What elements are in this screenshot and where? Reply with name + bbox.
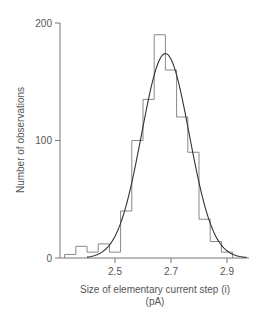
y-axis: 0100200 bbox=[35, 18, 60, 264]
y-axis-label: Number of observations bbox=[15, 87, 26, 193]
x-tick-label: 2.9 bbox=[220, 266, 234, 277]
x-axis-label-text: Size of elementary current step (i) bbox=[60, 284, 250, 296]
y-tick-label: 100 bbox=[35, 135, 52, 146]
x-ticks: 2.52.72.9 bbox=[108, 258, 234, 277]
x-tick-label: 2.5 bbox=[108, 266, 122, 277]
y-ticks: 0100200 bbox=[35, 18, 60, 264]
y-tick-label: 200 bbox=[35, 18, 52, 29]
x-axis-label-units: (pA) bbox=[60, 296, 250, 308]
histogram-bars bbox=[65, 35, 233, 258]
x-tick-label: 2.7 bbox=[164, 266, 178, 277]
histogram-chart: 0100200 2.52.72.9 Number of observations bbox=[0, 0, 263, 321]
x-axis: 2.52.72.9 bbox=[60, 258, 249, 277]
y-tick-label: 0 bbox=[46, 253, 52, 264]
x-axis-label: Size of elementary current step (i) (pA) bbox=[60, 284, 250, 308]
fitted-gaussian-curve bbox=[87, 54, 247, 258]
